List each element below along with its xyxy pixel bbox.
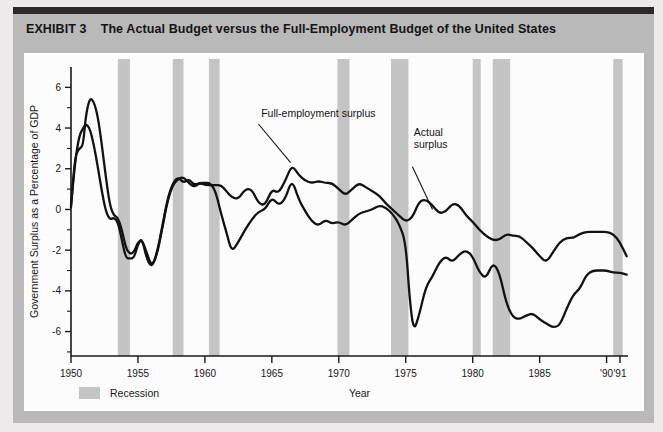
- y-tick-label: 4: [55, 123, 61, 134]
- recession-band: [391, 59, 408, 356]
- exhibit-caption: EXHIBIT 3The Actual Budget versus the Fu…: [26, 22, 556, 36]
- recession-bands-group: [118, 59, 623, 356]
- top-rule-divider: [13, 7, 654, 14]
- figure-page: EXHIBIT 3The Actual Budget versus the Fu…: [0, 0, 663, 432]
- x-tick-label: 1985: [529, 368, 552, 379]
- annotation-full-employment-surplus: Full-employment surplus: [261, 107, 375, 119]
- legend-group: Recession: [79, 387, 159, 399]
- y-tick-label: 0: [55, 204, 61, 215]
- recession-band: [613, 59, 622, 356]
- recession-band: [337, 59, 349, 356]
- x-tick-label: 1950: [60, 368, 83, 379]
- chart-plot-card: -6-4-20246195019551960196519701975198019…: [24, 53, 644, 411]
- recession-band: [209, 59, 220, 356]
- x-tick-label: '91: [613, 368, 626, 379]
- x-axis-title: Year: [349, 387, 371, 399]
- exhibit-number: EXHIBIT 3: [26, 22, 87, 36]
- recession-band: [473, 59, 481, 356]
- annotation-actual-surplus-line1: Actual: [414, 126, 443, 138]
- y-tick-label: -4: [52, 285, 61, 296]
- x-tick-label: 1960: [194, 368, 217, 379]
- x-tick-label: 1965: [261, 368, 284, 379]
- legend-swatch-recession: [79, 387, 100, 399]
- y-tick-label: -6: [52, 326, 61, 337]
- recession-band: [173, 59, 184, 356]
- budget-surplus-line-chart: -6-4-20246195019551960196519701975198019…: [24, 53, 644, 411]
- x-tick-label: '90: [600, 368, 613, 379]
- recession-band: [118, 59, 130, 356]
- y-tick-label: 6: [55, 82, 61, 93]
- y-tick-label: 2: [55, 163, 61, 174]
- leader-line-full-employment: [258, 124, 290, 163]
- exhibit-caption-band: EXHIBIT 3The Actual Budget versus the Fu…: [13, 14, 654, 44]
- y-axis-title: Government Surplus as a Percentage of GD…: [28, 105, 40, 318]
- leader-line-actual: [412, 167, 432, 210]
- x-tick-label: 1970: [328, 368, 351, 379]
- recession-band: [493, 59, 510, 356]
- x-tick-label: 1980: [462, 368, 485, 379]
- x-tick-label: 1975: [395, 368, 418, 379]
- exhibit-title: The Actual Budget versus the Full-Employ…: [101, 22, 556, 36]
- annotation-actual-surplus-line2: surplus: [414, 138, 448, 150]
- legend-label-recession: Recession: [110, 387, 159, 399]
- x-tick-label: 1955: [127, 368, 150, 379]
- y-tick-label: -2: [52, 245, 61, 256]
